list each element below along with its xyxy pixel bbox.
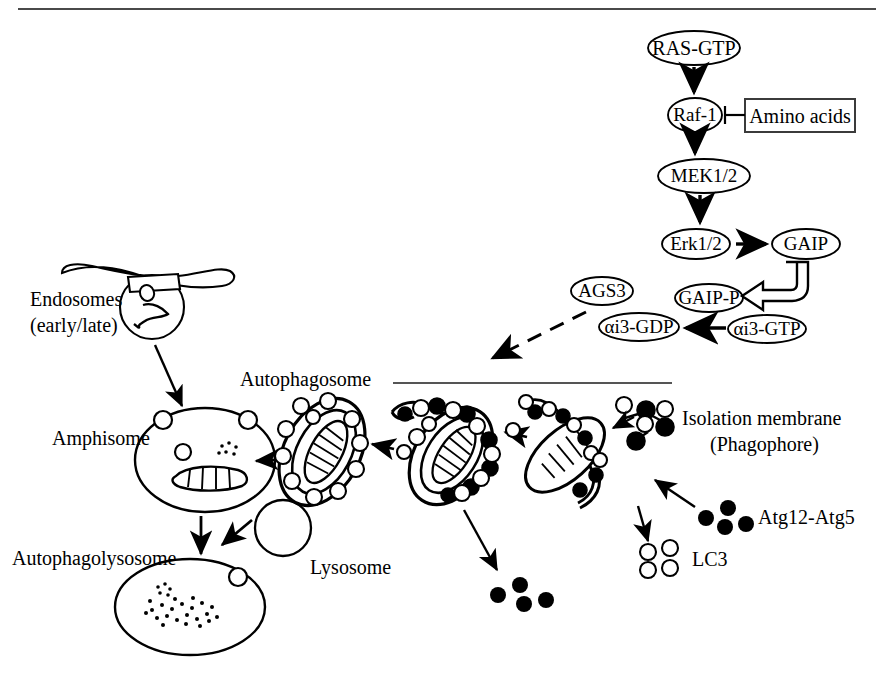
node-label-ai3-gtp: αi3-GTP xyxy=(734,318,801,340)
autophagosome-label: Autophagosome xyxy=(240,368,371,391)
endosomes-label-line1: Endosomes xyxy=(30,288,122,311)
node-label-ras-gtp: RAS-GTP xyxy=(652,37,735,60)
autophagosome-closed-lc3-coated xyxy=(262,384,383,520)
node-label-ai3-gdp: αi3-GDP xyxy=(604,316,673,338)
isolation-membrane-label-line1: Isolation membrane xyxy=(682,407,841,430)
arrow-nucleation-to-isolation xyxy=(613,417,634,428)
arrow-atg12atg5-to-isolation xyxy=(655,480,695,507)
lysosome-vesicle xyxy=(255,500,311,556)
isolation-membrane-phagophore xyxy=(506,395,617,508)
node-label-erk1-2: Erk1/2 xyxy=(670,233,722,255)
arrow-isolation-to-closing-autophagosome xyxy=(505,432,527,437)
node-label-gaip: GAIP xyxy=(784,233,828,255)
amphisome-label: Amphisome xyxy=(52,427,150,450)
node-label-raf-1: Raf-1 xyxy=(673,104,716,126)
pathway-figure: RAS-GTP Raf-1 MEK1/2 Erk1/2 GAIP AGS3 GA… xyxy=(0,0,884,675)
lysosome-label: Lysosome xyxy=(310,556,391,579)
endosomes-label-line2: (early/late) xyxy=(30,314,118,337)
endosome-vesicle xyxy=(120,275,184,339)
node-label-gaip-p: GAIP-P xyxy=(678,287,739,309)
autophagolysosome-label: Autophagolysosome xyxy=(12,547,176,570)
node-label-mek1-2: MEK1/2 xyxy=(671,165,738,187)
degradation-speckles xyxy=(144,596,219,628)
node-label-ags3: AGS3 xyxy=(578,280,626,302)
atg-protein-nucleation-cluster xyxy=(613,397,674,450)
top-border-rule xyxy=(18,8,876,10)
atg12-atg5-label: Atg12-Atg5 xyxy=(758,506,855,529)
atg12-atg5-particle-cluster xyxy=(698,500,754,535)
lc3-label: LC3 xyxy=(692,548,728,571)
dashed-cascade-to-autophagy-arrow xyxy=(493,312,586,358)
arrow-autophagosome-to-degradation xyxy=(464,510,497,570)
amphisome-lc3-dot-left xyxy=(154,411,172,429)
isolation-membrane-label-line2: (Phagophore) xyxy=(710,433,819,456)
arrow-closing-to-closed-autophagosome xyxy=(372,444,394,449)
autophagolysosome-vesicle xyxy=(115,559,265,655)
arrow-autophagosome-to-amphisome xyxy=(256,459,292,461)
arrow-endosome-to-amphisome xyxy=(155,345,182,406)
autophagosome-closing-atg-coated xyxy=(392,392,510,520)
arrow-isolation-to-lc3 xyxy=(638,506,648,541)
amphisome-vesicle xyxy=(135,408,275,512)
lc3-particle-cluster xyxy=(640,540,678,578)
degraded-particle-cluster xyxy=(490,577,554,612)
amino-acids-label: Amino acids xyxy=(749,105,851,128)
arrow-lysosome-to-autophagolysosome xyxy=(222,520,252,545)
inhibition-connector-amino-acids-raf1 xyxy=(725,106,745,124)
hook-block-arrow-gaip-to-gaip-p xyxy=(742,262,808,310)
amphisome-lc3-dot-right xyxy=(239,411,257,429)
